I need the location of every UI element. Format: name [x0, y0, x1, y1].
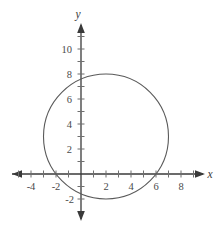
y-axis-up-arrow-icon — [77, 23, 85, 33]
math-figure-circle-plot: -4 -2 2 4 6 8 10 8 6 4 2 -2 x y — [0, 0, 223, 227]
x-axis-right-arrow-icon — [195, 170, 205, 178]
y-tick-label-10: 10 — [62, 44, 73, 55]
y-tick-label-4: 4 — [67, 119, 73, 130]
x-tick-label-6: 6 — [153, 181, 158, 192]
coordinate-plot-svg: -4 -2 2 4 6 8 10 8 6 4 2 -2 x y — [0, 0, 223, 227]
y-tick-label-2: 2 — [67, 144, 72, 155]
x-axis-label: x — [206, 168, 213, 180]
x-tick-label--2: -2 — [52, 181, 61, 192]
y-tick-label-6: 6 — [67, 94, 72, 105]
x-tick-label-2: 2 — [103, 181, 108, 192]
x-tick-label-4: 4 — [128, 181, 134, 192]
x-axis-left-arrow-icon — [12, 170, 22, 178]
y-tick-label--2: -2 — [65, 194, 74, 205]
y-axis-label: y — [74, 8, 81, 21]
y-axis-down-arrow-icon — [77, 211, 85, 221]
x-tick-label-8: 8 — [178, 181, 183, 192]
x-tick-label--4: -4 — [27, 181, 36, 192]
y-tick-label-8: 8 — [67, 69, 72, 80]
